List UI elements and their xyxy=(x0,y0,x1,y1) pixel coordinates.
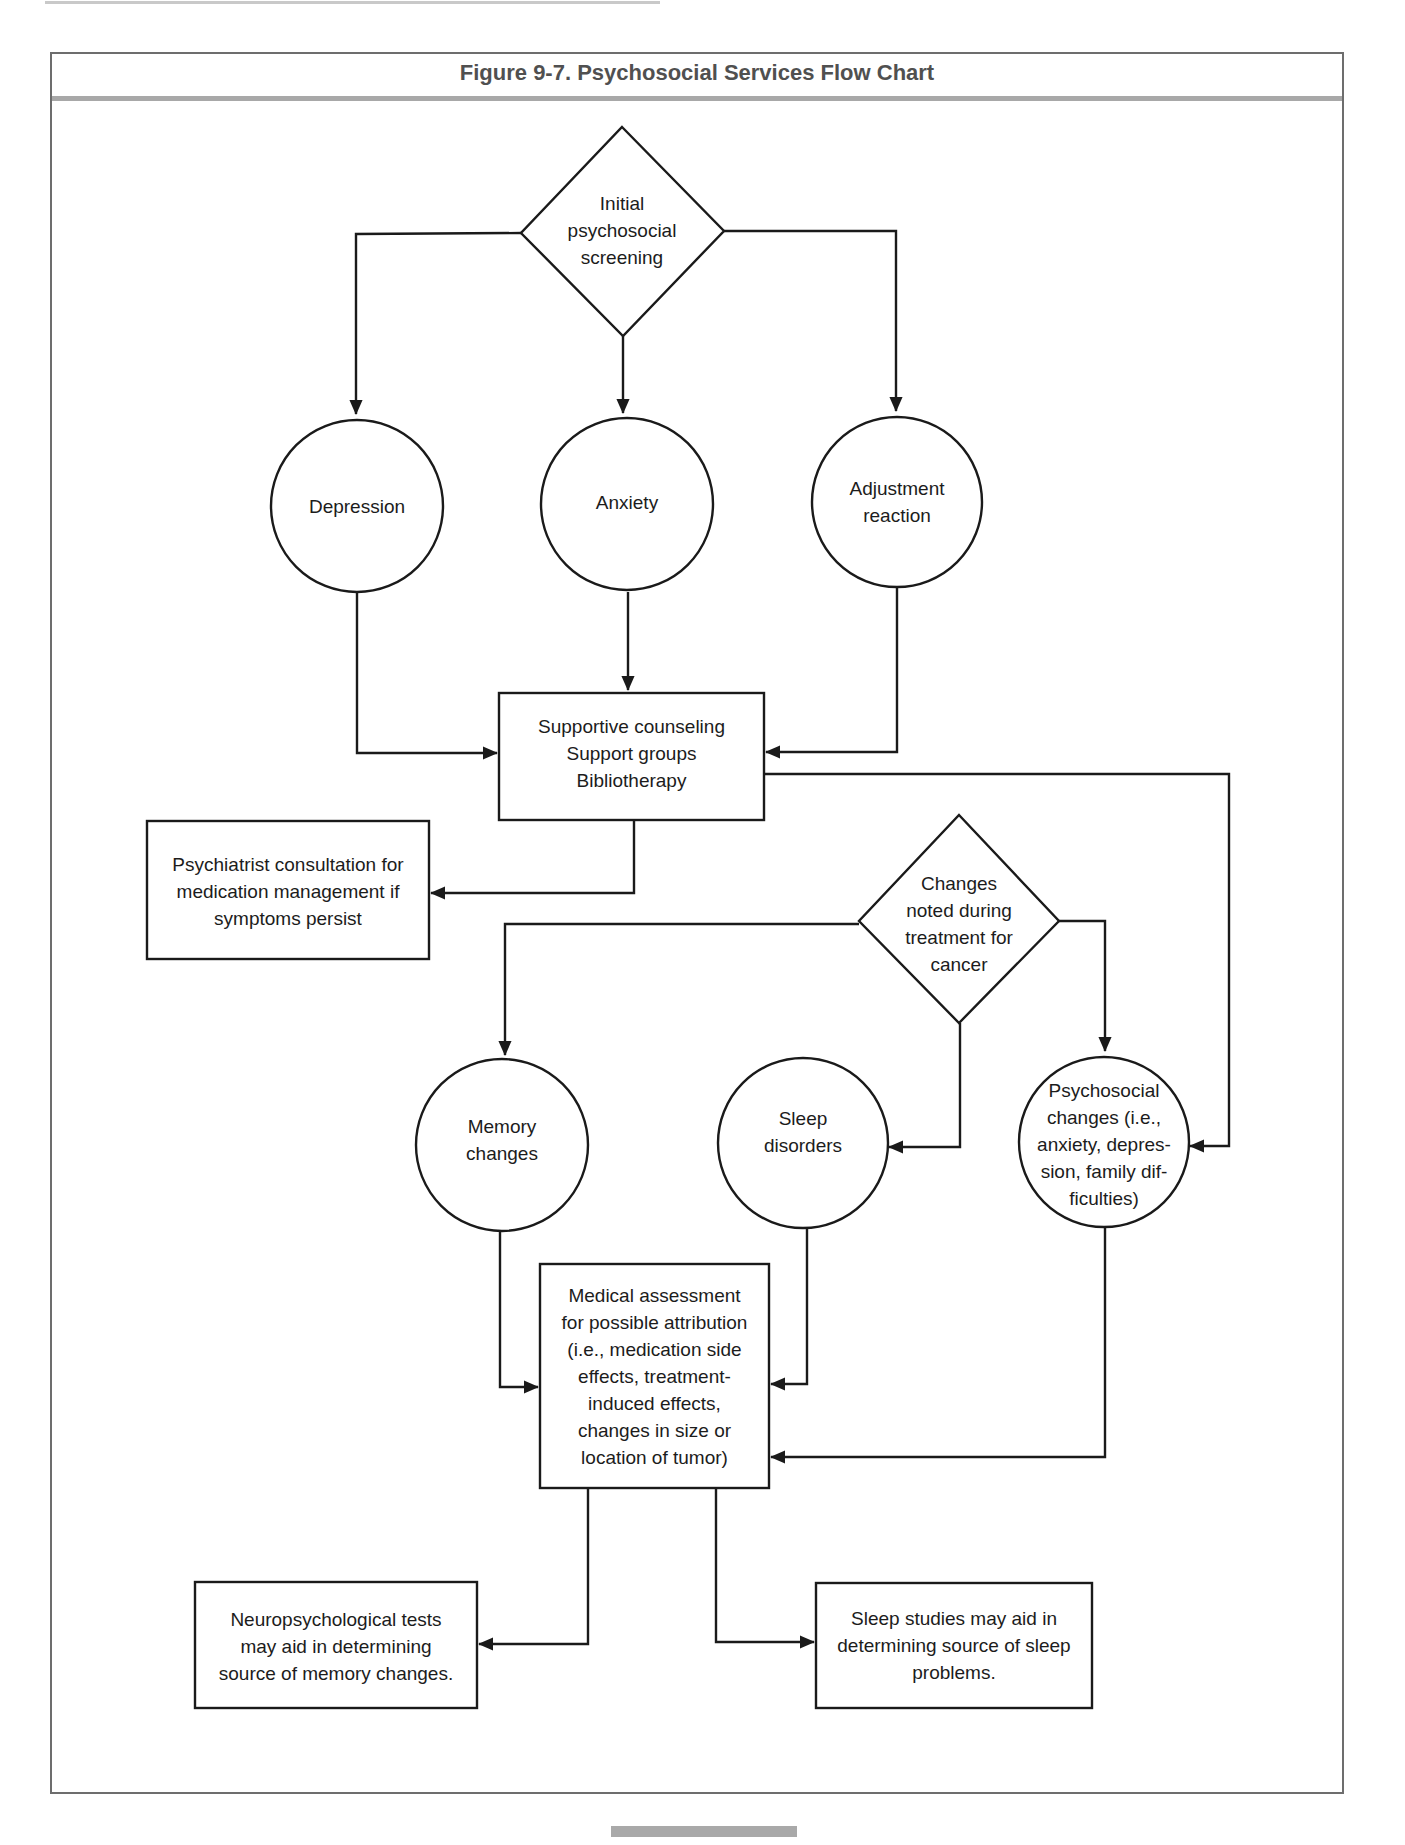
edge-sleep-to-medical xyxy=(771,1228,807,1384)
psychosocial-changes-label: Psychosocial changes (i.e., anxiety, dep… xyxy=(1024,1077,1184,1211)
edge-memory-to-medical xyxy=(500,1231,538,1387)
edge-changes-to-psychosocial xyxy=(1059,921,1105,1051)
sleep-disorders-label: Sleep disorders xyxy=(723,1102,883,1162)
edge-adjustment-to-supportive xyxy=(766,588,897,752)
sleep-studies-label: Sleep studies may aid in determining sou… xyxy=(818,1603,1090,1687)
adjustment-reaction-label: Adjustment reaction xyxy=(817,462,977,542)
depression-label: Depression xyxy=(277,466,437,546)
edge-screening-to-depression xyxy=(356,233,521,414)
edge-depression-to-supportive xyxy=(357,592,497,753)
edge-medical-to-sleep-studies xyxy=(716,1488,814,1642)
memory-changes-label: Memory changes xyxy=(422,1110,582,1170)
medical-assessment-label: Medical assessment for possible attribut… xyxy=(542,1280,767,1472)
changes-during-treatment-label: Changes noted during treatment for cance… xyxy=(874,868,1044,980)
initial-screening-label: Initial psychosocial screening xyxy=(532,170,712,290)
neuropsych-tests-label: Neuropsychological tests may aid in dete… xyxy=(197,1604,475,1688)
edge-changes-to-memory xyxy=(505,924,859,1055)
supportive-services-label: Supportive counseling Support groups Bib… xyxy=(501,710,762,796)
edge-changes-to-sleep xyxy=(889,1023,960,1147)
psychiatrist-consultation-label: Psychiatrist consultation for medication… xyxy=(149,848,427,934)
edge-medical-to-neuropsych xyxy=(479,1488,588,1644)
edge-screening-to-adjustment xyxy=(724,231,896,411)
edge-supportive-to-psychiatrist xyxy=(431,820,634,893)
edge-psychosocial-to-medical xyxy=(771,1227,1105,1457)
page-footer-bar xyxy=(611,1826,797,1837)
anxiety-label: Anxiety xyxy=(547,462,707,542)
